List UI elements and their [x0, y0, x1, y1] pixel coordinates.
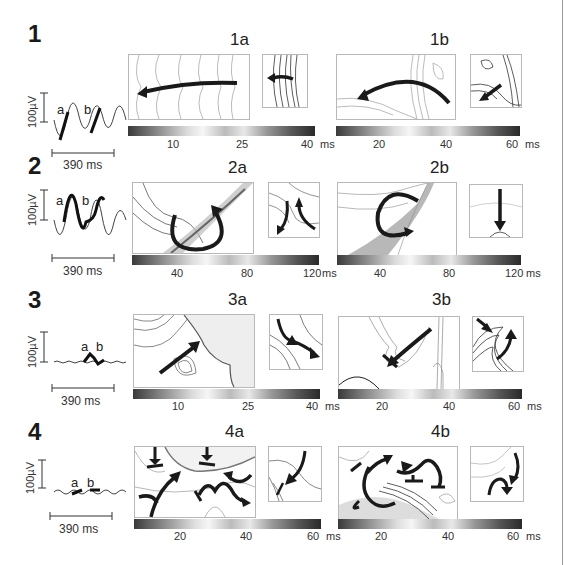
- contour-map-icon: [338, 183, 456, 255]
- wave-label-a: a: [57, 102, 64, 117]
- contour-inset-icon: [270, 315, 322, 369]
- time-scale-label: 390 ms: [59, 522, 98, 536]
- colorbar-unit: ms: [527, 400, 542, 412]
- panel-title: 4b: [431, 422, 450, 442]
- activation-map-main: [337, 182, 457, 256]
- panel-title: 2a: [228, 158, 247, 178]
- colorbar-tick: 120: [505, 267, 523, 279]
- colorbar-unit: ms: [322, 267, 337, 279]
- colorbar-tick: 60: [508, 400, 520, 412]
- signal-trace: 100µV a b 390 ms: [20, 50, 130, 160]
- time-scale-label: 390 ms: [61, 394, 100, 408]
- activation-map-main: [338, 316, 460, 390]
- panel-title: 1b: [430, 30, 449, 50]
- time-scale-label: 390 ms: [63, 264, 102, 278]
- colorbar-unit: ms: [325, 400, 340, 412]
- colorbar-tick: 60: [507, 530, 519, 542]
- colorbar-tick: 10: [167, 138, 179, 150]
- colorbar-tick: 80: [241, 267, 253, 279]
- colorbar-unit: ms: [320, 138, 335, 150]
- contour-map-icon: [337, 55, 455, 119]
- colorbar: [132, 255, 319, 265]
- contour-map-icon: [129, 55, 249, 119]
- activation-map-inset: [268, 446, 322, 502]
- colorbar-tick: 20: [376, 400, 388, 412]
- activation-map-main: [134, 446, 256, 518]
- colorbar-tick: 20: [174, 530, 186, 542]
- colorbar-tick: 60: [506, 138, 518, 150]
- colorbar-tick: 40: [171, 267, 183, 279]
- panel-title: 4a: [225, 422, 244, 442]
- activation-map-main: [336, 54, 456, 120]
- contour-inset-icon: [263, 55, 307, 107]
- signal-trace: 100µV a b 390 ms: [20, 424, 130, 534]
- activation-map-inset: [269, 314, 323, 370]
- colorbar: [128, 126, 315, 136]
- wave-label-a: a: [56, 193, 63, 208]
- activation-map-main: [133, 314, 255, 388]
- row-4: 4 100µV a b 390 ms 4a: [0, 414, 565, 546]
- contour-map-icon: [133, 183, 253, 253]
- colorbar-tick: 120: [303, 267, 321, 279]
- wave-label-b: b: [87, 475, 94, 490]
- amplitude-scale-label: 100µV: [24, 462, 36, 494]
- colorbar-tick: 40: [301, 138, 313, 150]
- colorbar-tick: 40: [306, 400, 318, 412]
- amplitude-scale-label: 100µV: [26, 194, 38, 226]
- contour-inset-icon: [470, 185, 522, 237]
- colorbar-unit: ms: [526, 267, 541, 279]
- contour-map-icon: [134, 315, 254, 387]
- panel-title: 3b: [432, 290, 451, 310]
- activation-map-main: [128, 54, 250, 120]
- wave-label-b: b: [84, 102, 91, 117]
- activation-map-inset: [262, 54, 308, 108]
- activation-map-inset: [472, 316, 524, 372]
- activation-map-inset: [470, 54, 522, 108]
- colorbar-tick: 40: [442, 530, 454, 542]
- colorbar-unit: ms: [525, 138, 540, 150]
- contour-inset-icon: [471, 55, 521, 107]
- row-3: 3 100µV a b 390 ms 3a: [0, 282, 565, 414]
- wave-label-a: a: [81, 339, 88, 354]
- row-number: 1: [28, 20, 41, 48]
- contour-map-icon: [339, 447, 457, 519]
- colorbar-tick: 40: [240, 530, 252, 542]
- colorbar-tick: 80: [443, 267, 455, 279]
- colorbar-tick: 10: [172, 400, 184, 412]
- panel-title: 3a: [228, 290, 247, 310]
- amplitude-scale-label: 100µV: [26, 96, 38, 128]
- colorbar-unit: ms: [326, 530, 341, 542]
- row-2: 2 100µV a b 390 ms 2a: [0, 150, 565, 282]
- panel-title: 1a: [230, 30, 249, 50]
- colorbar-tick: 40: [374, 267, 386, 279]
- contour-map-icon: [339, 317, 459, 389]
- contour-inset-icon: [471, 447, 523, 501]
- wave-label-b: b: [96, 339, 103, 354]
- colorbar-tick: 20: [375, 530, 387, 542]
- colorbar-tick: 25: [236, 138, 248, 150]
- colorbar-tick: 40: [440, 138, 452, 150]
- contour-map-icon: [135, 447, 255, 517]
- colorbar: [133, 389, 320, 399]
- colorbar: [337, 255, 521, 265]
- signal-trace: 100µV a b 390 ms: [20, 160, 130, 270]
- wave-label-b: b: [82, 193, 89, 208]
- colorbar-tick: 40: [443, 400, 455, 412]
- activation-map-inset: [469, 184, 523, 238]
- signal-trace: 100µV a b 390 ms: [20, 292, 130, 402]
- activation-map-inset: [268, 182, 320, 238]
- panel-title: 2b: [430, 158, 449, 178]
- colorbar-tick: 20: [373, 138, 385, 150]
- colorbar: [338, 389, 522, 399]
- wave-label-a: a: [71, 475, 78, 490]
- colorbar: [336, 126, 520, 136]
- colorbar-unit: ms: [526, 530, 541, 542]
- contour-inset-icon: [269, 183, 319, 237]
- activation-map-main: [132, 182, 254, 254]
- contour-inset-icon: [473, 317, 523, 371]
- colorbar: [338, 519, 522, 529]
- amplitude-scale-label: 100µV: [26, 336, 38, 368]
- colorbar-tick: 60: [307, 530, 319, 542]
- contour-inset-icon: [269, 447, 321, 501]
- row-1: 1 100µV a b 390 ms 1a: [0, 20, 565, 152]
